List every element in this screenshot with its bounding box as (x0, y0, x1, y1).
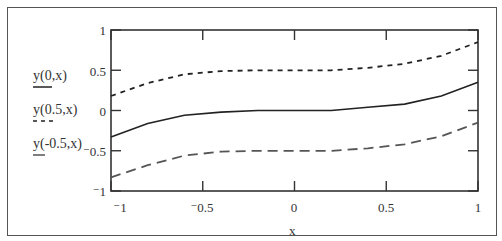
x-tick-label: ⁻1 (100, 201, 140, 214)
y-tick-label: 1 (76, 24, 106, 37)
x-tick-label: 0 (274, 201, 314, 214)
legend-line-short-dash-icon (33, 119, 53, 123)
x-tick-label: 0.5 (366, 201, 406, 214)
legend-item-y-05: y(-0.5,x) (33, 137, 82, 151)
series-lines (111, 42, 478, 177)
legend-label: y(-0.5,x) (33, 136, 82, 151)
legend-label: y(0.5,x) (33, 102, 77, 117)
x-tick-label: 1 (458, 201, 498, 214)
legend-line-long-dash-icon (33, 153, 53, 157)
y-tick-label: 0 (76, 105, 106, 118)
legend-line-solid-icon (33, 85, 53, 89)
series-line-short-dash (111, 42, 478, 96)
y-tick-label: ⁻1 (76, 185, 106, 198)
legend-item-y05: y(0.5,x) (33, 103, 77, 117)
legend-label: y(0,x) (33, 68, 67, 83)
series-line-solid (111, 82, 478, 137)
series-line-long-dash (111, 123, 478, 178)
legend-item-y0: y(0,x) (33, 69, 67, 83)
y-tick-label: 0.5 (76, 65, 106, 78)
x-axis-title: x (289, 223, 296, 239)
x-tick-label: ⁻0.5 (182, 201, 222, 214)
